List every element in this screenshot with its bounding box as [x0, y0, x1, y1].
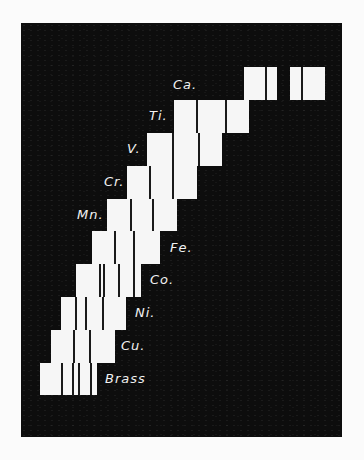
spectral-line: [133, 231, 135, 264]
element-label: Brass: [105, 371, 146, 386]
element-label: Cr.: [104, 174, 124, 189]
spectrum-strip: [147, 133, 222, 166]
spectral-line: [172, 166, 174, 199]
spectral-line: [196, 100, 198, 133]
spectral-line: [61, 363, 63, 395]
spectral-line: [89, 330, 91, 363]
element-label: Ti.: [149, 108, 168, 123]
spectral-line: [149, 166, 151, 199]
spectrum-strip: [61, 297, 126, 330]
spectral-line: [301, 67, 303, 100]
spectral-line: [130, 199, 132, 231]
spectral-line: [85, 297, 87, 330]
element-label: Cu.: [121, 338, 145, 353]
element-label: Mn.: [77, 207, 104, 222]
spectral-line: [102, 297, 104, 330]
spectrum-strip: [244, 67, 277, 100]
spectral-line: [73, 330, 75, 363]
spectrum-strip: [127, 166, 197, 199]
spectral-line: [103, 264, 105, 297]
element-label: Co.: [150, 272, 174, 287]
spectrum-strip: [92, 231, 160, 264]
element-label: Fe.: [170, 240, 193, 255]
spectral-line: [75, 297, 77, 330]
spectral-line: [99, 264, 101, 297]
spectral-line: [133, 264, 135, 297]
spectral-line: [90, 363, 92, 395]
spectral-line: [114, 231, 116, 264]
spectrum-strip: [174, 100, 249, 133]
spectrum-strip: [40, 363, 97, 395]
spectral-line: [225, 100, 227, 133]
spectral-line: [72, 363, 74, 395]
spectrum-strip: [76, 264, 141, 297]
spectral-line: [265, 67, 267, 100]
spectral-line: [172, 133, 174, 166]
spectral-line: [78, 363, 80, 395]
element-label: Ni.: [135, 305, 155, 320]
element-label: V.: [127, 141, 141, 156]
element-label: Ca.: [173, 77, 197, 92]
spectrum-strip: [51, 330, 115, 363]
spectral-line: [152, 199, 154, 231]
spectrum-strip: [107, 199, 177, 231]
spectral-line: [198, 133, 200, 166]
spectral-line: [118, 264, 120, 297]
spectrum-strip: [290, 67, 325, 100]
